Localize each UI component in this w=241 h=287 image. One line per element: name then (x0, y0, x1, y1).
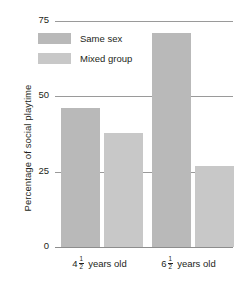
x-label-rest-1: years old (177, 258, 216, 269)
x-axis-label-1: 612years old (144, 256, 233, 271)
x-label-whole-1: 6 (161, 258, 166, 269)
y-axis-title: Percentage of social playtime (22, 43, 38, 253)
chart-legend: Same sex Mixed group (38, 31, 158, 71)
legend-item-same-sex: Same sex (38, 31, 158, 45)
x-axis-label-0: 412years old (55, 256, 144, 271)
legend-item-mixed-group: Mixed group (38, 51, 158, 65)
gridline-50: 50 (55, 96, 233, 97)
y-tick-label-50: 50 (38, 90, 49, 101)
bar-0-0 (61, 108, 100, 247)
gridline-75: 75 (55, 21, 233, 22)
legend-swatch-mixed-group (38, 53, 71, 64)
x-label-whole-0: 4 (72, 258, 77, 269)
x-axis-labels: 412years old612years old (55, 256, 233, 282)
x-label-fraction-1: 12 (168, 256, 174, 271)
bar-chart: Percentage of social playtime 0255075 Sa… (0, 0, 241, 287)
x-label-rest-0: years old (88, 258, 127, 269)
legend-label-same-sex: Same sex (80, 33, 122, 44)
legend-label-mixed-group: Mixed group (80, 53, 132, 64)
bar-0-1 (104, 133, 143, 248)
x-label-fraction-0: 12 (79, 256, 85, 271)
gridline-0: 0 (55, 247, 233, 248)
y-tick-label-25: 25 (38, 165, 49, 176)
y-tick-label-75: 75 (38, 14, 49, 25)
legend-swatch-same-sex (38, 33, 71, 44)
y-tick-label-0: 0 (44, 240, 49, 251)
bar-1-1 (195, 166, 234, 247)
